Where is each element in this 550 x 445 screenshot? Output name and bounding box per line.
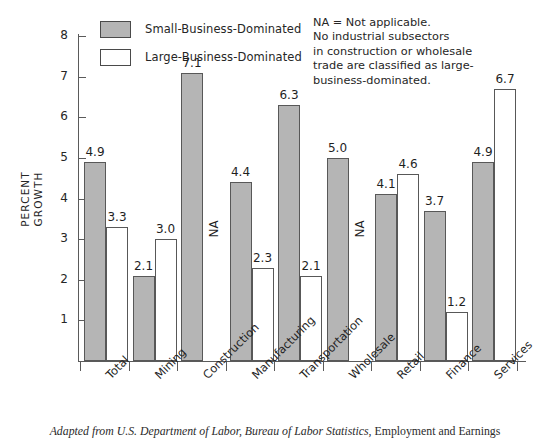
y-tick-7 (78, 77, 86, 78)
legend-swatch-small-business (100, 21, 131, 38)
y-tick-label-7: 7 (42, 69, 68, 83)
bar-small-mining (133, 276, 155, 361)
y-tick-label-8: 8 (42, 28, 68, 42)
y-tick-label-1: 1 (42, 312, 68, 326)
note-line-3: in construction or wholesale (313, 45, 474, 59)
bar-small-total (84, 162, 106, 361)
bar-value-small-wholesale: 5.0 (322, 141, 354, 155)
legend-label-small-business: Small-Business-Dominated (145, 22, 301, 36)
note-line-2: No industrial subsectors (313, 30, 474, 44)
legend-swatch-large-business (100, 49, 131, 66)
bar-large-total (106, 227, 128, 361)
na-marker-wholesale: NA (353, 214, 367, 244)
bar-small-finance (424, 211, 446, 361)
figure-caption: Adapted from U.S. Department of Labor, B… (0, 424, 550, 439)
bar-value-large-total: 3.3 (101, 210, 133, 224)
note-line-1: NA = Not applicable. (313, 16, 474, 30)
bar-value-large-manufacturing: 2.3 (247, 251, 279, 265)
caption-roman: Employment and Earnings (372, 424, 501, 438)
bar-large-retail (397, 174, 419, 361)
bar-large-mining (155, 239, 177, 361)
bar-value-small-finance: 3.7 (419, 194, 451, 208)
y-tick-label-2: 2 (42, 272, 68, 286)
y-tick-6 (78, 117, 86, 118)
bar-value-small-manufacturing: 4.4 (225, 165, 257, 179)
y-tick-label-3: 3 (42, 231, 68, 245)
na-marker-construction: NA (207, 214, 221, 244)
y-tick-label-5: 5 (42, 150, 68, 164)
caption-italic: Adapted from U.S. Department of Labor, B… (50, 424, 372, 438)
bar-small-services (472, 162, 494, 361)
y-tick-label-6: 6 (42, 109, 68, 123)
bar-value-small-construction: 7.1 (176, 56, 208, 70)
y-tick-8 (78, 36, 86, 37)
x-tick-0 (80, 362, 81, 371)
bar-value-large-services: 6.7 (489, 72, 521, 86)
bar-value-small-transportation: 6.3 (273, 88, 305, 102)
bar-value-small-total: 4.9 (79, 145, 111, 159)
bar-value-large-mining: 3.0 (150, 222, 182, 236)
bar-small-construction (181, 73, 203, 361)
legend-label-large-business: Large-Business-Dominated (145, 50, 302, 64)
y-axis-title-line-1: PERCENT (19, 151, 32, 247)
bar-large-manufacturing (252, 268, 274, 361)
bar-value-large-retail: 4.6 (392, 157, 424, 171)
legend-item-small-business: Small-Business-Dominated (100, 18, 302, 40)
y-tick-label-4: 4 (42, 191, 68, 205)
bar-value-large-finance: 1.2 (441, 295, 473, 309)
note-line-5: business-dominated. (313, 74, 474, 88)
note-line-4: trade are classified as large- (313, 59, 474, 73)
chart-note: NA = Not applicable. No industrial subse… (313, 16, 474, 88)
bar-value-large-transportation: 2.1 (295, 259, 327, 273)
chart-canvas: Small-Business-Dominated Large-Business-… (0, 0, 550, 445)
bar-large-services (494, 89, 516, 361)
